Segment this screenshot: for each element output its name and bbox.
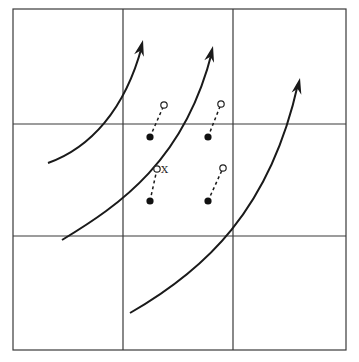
displacement: [146, 102, 167, 141]
displacement: X: [146, 164, 169, 205]
diagram-canvas: X: [0, 0, 359, 362]
initial-position-dot: [146, 197, 153, 204]
displacement: [204, 165, 226, 205]
final-position-circle: [218, 101, 224, 107]
initial-position-dot: [204, 133, 211, 140]
flow-arrow: [130, 78, 301, 313]
grid-border: [13, 9, 346, 350]
initial-position-dot: [146, 133, 153, 140]
dashed-link: [150, 169, 157, 201]
initial-position-dot: [204, 197, 211, 204]
flow-curve: [48, 46, 142, 163]
final-position-circle: [154, 166, 160, 172]
point-label: X: [161, 164, 169, 175]
final-position-circle: [220, 165, 226, 171]
final-position-circle: [161, 102, 167, 108]
dashed-link: [150, 105, 164, 137]
dashed-link: [208, 168, 223, 201]
displacement: [204, 101, 224, 141]
grid: [13, 9, 346, 350]
flow-arrow: [48, 40, 144, 163]
flow-arrows: [48, 40, 301, 313]
flow-curve: [62, 52, 212, 240]
dashed-link: [208, 104, 221, 137]
flow-curve: [130, 84, 298, 313]
displacement-vectors: X: [146, 101, 226, 205]
